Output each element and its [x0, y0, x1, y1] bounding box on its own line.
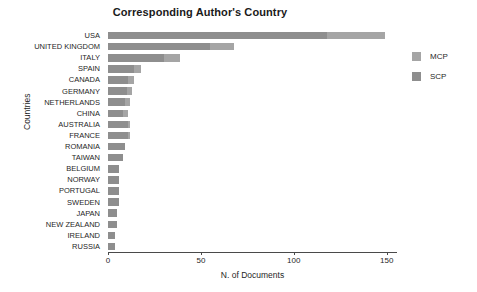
bar-norway[interactable] [108, 176, 119, 184]
bar-china[interactable] [108, 110, 128, 118]
bar-segment-scp [108, 187, 119, 195]
x-tick-0 [108, 252, 109, 255]
bar-netherlands[interactable] [108, 98, 130, 106]
bar-segment-scp [108, 132, 128, 140]
bar-segment-mcp [128, 132, 130, 140]
bar-germany[interactable] [108, 87, 132, 95]
bar-segment-scp [108, 76, 128, 84]
bar-australia[interactable] [108, 121, 130, 129]
y-axis-tick-labels: USAUNITED KINGDOMITALYSPAINCANADAGERMANY… [0, 30, 104, 252]
legend-swatch-scp [412, 72, 421, 81]
bar-russia[interactable] [108, 243, 115, 251]
y-tick-label-portugal: PORTUGAL [59, 186, 100, 195]
y-tick-label-new-zealand: NEW ZEALAND [46, 220, 100, 229]
bar-segment-scp [108, 65, 134, 73]
bar-segment-scp [108, 221, 117, 229]
bar-segment-scp [108, 32, 327, 40]
y-tick-label-japan: JAPAN [76, 209, 100, 218]
legend-label-mcp: MCP [430, 52, 448, 61]
y-tick-label-spain: SPAIN [78, 64, 100, 73]
y-tick-label-taiwan: TAIWAN [72, 153, 100, 162]
x-tick-label-0: 0 [106, 256, 110, 265]
y-tick-label-usa: USA [85, 31, 100, 40]
bar-romania[interactable] [108, 143, 125, 151]
chart-legend: MCPSCP [412, 52, 448, 92]
legend-swatch-mcp [412, 52, 421, 61]
bar-segment-scp [108, 243, 115, 251]
bar-segment-scp [108, 121, 128, 129]
bar-segment-mcp [164, 54, 181, 62]
y-tick-label-france: FRANCE [69, 131, 100, 140]
y-tick-label-australia: AUSTRALIA [58, 120, 100, 129]
x-tick-label-150: 150 [380, 256, 393, 265]
y-tick-label-romania: ROMANIA [65, 142, 100, 151]
legend-label-scp: SCP [430, 72, 446, 81]
bar-new-zealand[interactable] [108, 221, 117, 229]
x-tick-label-100: 100 [287, 256, 300, 265]
y-tick-label-germany: GERMANY [62, 87, 100, 96]
bar-taiwan[interactable] [108, 154, 123, 162]
bar-segment-scp [108, 154, 123, 162]
x-tick-100 [294, 252, 295, 255]
y-tick-label-belgium: BELGIUM [66, 164, 100, 173]
y-tick-label-sweden: SWEDEN [67, 198, 100, 207]
bar-segment-mcp [128, 76, 134, 84]
y-tick-label-italy: ITALY [80, 53, 100, 62]
bar-segment-mcp [327, 32, 385, 40]
bar-ireland[interactable] [108, 232, 115, 240]
bar-italy[interactable] [108, 54, 180, 62]
chart-title: Corresponding Author's Country [0, 6, 400, 18]
bar-segment-scp [108, 87, 127, 95]
y-tick-label-china: CHINA [77, 109, 100, 118]
y-tick-label-russia: RUSSIA [72, 242, 100, 251]
x-tick-150 [387, 252, 388, 255]
bar-united-kingdom[interactable] [108, 43, 234, 51]
bar-japan[interactable] [108, 209, 117, 217]
bar-segment-mcp [134, 65, 141, 73]
bar-france[interactable] [108, 132, 130, 140]
x-tick-50 [201, 252, 202, 255]
bar-segment-mcp [123, 110, 129, 118]
bar-segment-mcp [128, 121, 130, 129]
legend-item-scp[interactable]: SCP [412, 72, 448, 81]
chart-container: Corresponding Author's Country Countries… [0, 0, 477, 292]
bar-segment-mcp [125, 98, 131, 106]
bar-segment-mcp [127, 87, 133, 95]
bar-segment-scp [108, 43, 210, 51]
bar-segment-scp [108, 143, 125, 151]
y-tick-label-norway: NORWAY [67, 175, 100, 184]
y-tick-label-ireland: IRELAND [67, 231, 100, 240]
bar-sweden[interactable] [108, 198, 119, 206]
legend-item-mcp[interactable]: MCP [412, 52, 448, 61]
bar-belgium[interactable] [108, 165, 119, 173]
y-tick-label-canada: CANADA [69, 75, 100, 84]
x-axis-line [108, 252, 397, 253]
plot-area [108, 30, 396, 252]
bar-usa[interactable] [108, 32, 385, 40]
bar-portugal[interactable] [108, 187, 119, 195]
bar-segment-scp [108, 232, 115, 240]
bar-segment-scp [108, 176, 119, 184]
bar-canada[interactable] [108, 76, 134, 84]
bar-segment-scp [108, 209, 117, 217]
bar-segment-scp [108, 165, 119, 173]
x-axis-title: N. of Documents [108, 270, 397, 280]
y-tick-label-united-kingdom: UNITED KINGDOM [34, 42, 100, 51]
bar-segment-mcp [210, 43, 234, 51]
bar-segment-scp [108, 54, 164, 62]
y-tick-label-netherlands: NETHERLANDS [44, 98, 100, 107]
bar-segment-scp [108, 198, 119, 206]
bar-segment-scp [108, 110, 123, 118]
bar-segment-scp [108, 98, 125, 106]
bar-spain[interactable] [108, 65, 141, 73]
x-tick-label-50: 50 [196, 256, 205, 265]
